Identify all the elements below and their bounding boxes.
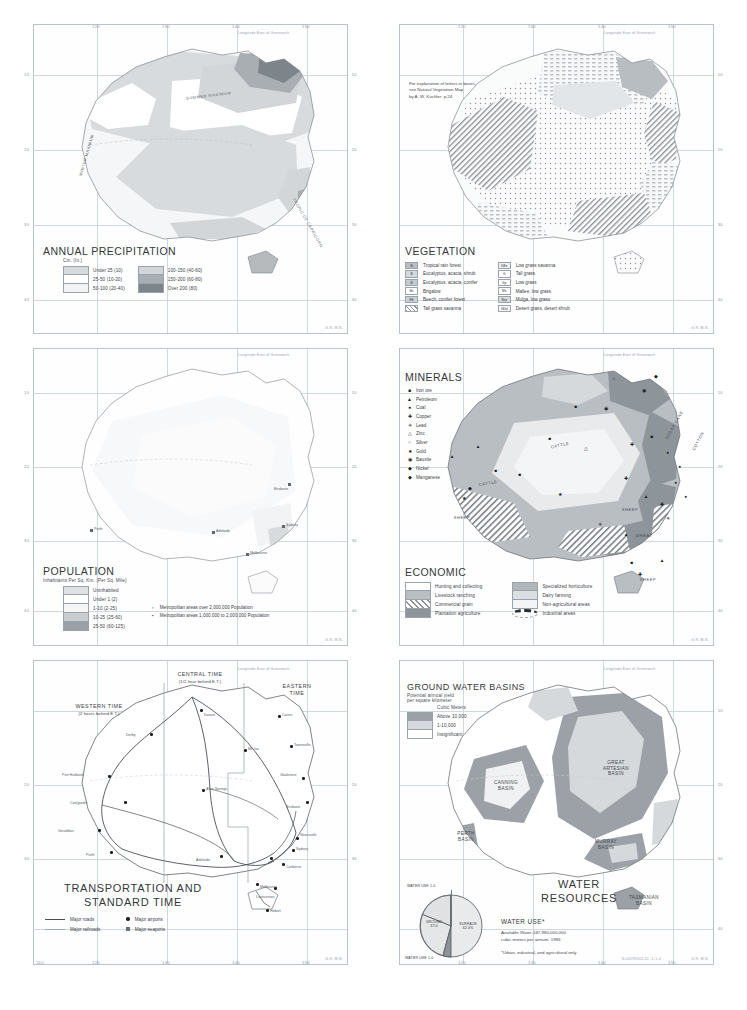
mineral-icon-coal: ● [405, 405, 414, 410]
basin-label-perth: PERTH BASIN [457, 831, 475, 842]
swatch-pop-0 [63, 586, 89, 595]
mineral-marker-bauxite: ◉ [642, 389, 646, 394]
veg-label-10: Mulga, low grass [516, 297, 550, 302]
city-marker-canberra [282, 863, 285, 866]
economic-legend-left: Hunting and collecting Livestock ranchin… [405, 582, 482, 618]
pie-label-surface: SURFACE 62.0% [451, 922, 485, 931]
lon-tick-bottom-3: 140 [232, 960, 240, 965]
legend-label-pop-2: 1-10 (2-25) [93, 604, 125, 613]
basin-label-murray: MURRAY BASIN [595, 839, 617, 850]
lon-tick-top-0: 120 [92, 24, 100, 29]
lon-tick-top-3: 150 [668, 24, 676, 29]
lon-tick-bottom-0: 110 [36, 960, 44, 965]
legend-label-water-2: Insignificant [437, 730, 467, 739]
city-marker-brisbane [306, 801, 309, 804]
mineral-label-gold: Gold [416, 449, 426, 454]
metro-label-0: Metropolitan areas over 2,000,000 Popula… [160, 605, 253, 610]
legend-units-basins: Cubic Meters [437, 705, 525, 710]
economic-legend-right: Specialized horticulture Dairy farming N… [512, 582, 592, 618]
city-label-darwin: Darwin [204, 713, 215, 717]
city-marker-adelaide [212, 531, 215, 534]
sheet-credit: G.R. M.N. [325, 957, 343, 961]
city-label-launceston: Launceston [256, 895, 275, 899]
city-label-newcastle: Newcastle [300, 833, 317, 837]
lat-tick-left-0: 10 [24, 72, 29, 77]
econ-label-sheep-3: SHEEP [640, 577, 657, 582]
lon-tick-bottom-4: 150 [302, 960, 310, 965]
city-label-port-hedland: Port Hedland [62, 773, 83, 777]
legend-label-precip-3: 100-150 (40-60) [168, 266, 202, 275]
swatch-econ-1 [405, 591, 431, 600]
lon-tick-top-1: 130 [162, 24, 170, 29]
mineral-icon-petroleum: ▲ [405, 397, 414, 402]
swatch-water-0 [407, 712, 433, 721]
lat-tick-left-1: 20 [24, 782, 29, 787]
veg-label-11: Desert grass, desert shrub [516, 306, 570, 311]
mineral-marker-coal: ● [675, 481, 678, 486]
swatch-pop-1 [63, 595, 89, 604]
pie-caption-water-use: WATER USE 1.0 [405, 956, 453, 960]
city-marker-coolgardie [124, 801, 127, 804]
mineral-marker-iron-ore: ■ [575, 405, 578, 410]
swatch-pop-3 [63, 613, 89, 622]
legend-subtitle-basins: Potential annual yield per square kilome… [407, 693, 525, 703]
mineral-marker-petroleum: ▲ [476, 445, 481, 450]
city-marker-cairns [278, 715, 281, 718]
title-transportation: TRANSPORTATION AND STANDARD TIME [43, 882, 223, 910]
swatch-pop-2 [63, 604, 89, 613]
veg-swatch-11: GDd [498, 305, 511, 312]
lat-tick-right-2: 30 [352, 538, 357, 543]
mineral-marker-petroleum: ▲ [660, 559, 665, 564]
econ-label-sheep-1: SHEEP [454, 515, 471, 520]
mineral-marker-iron-ore: ■ [631, 561, 634, 566]
sheet-credit: G.R. M.N. [325, 638, 343, 642]
lon-tick-top-1: 130 [528, 24, 536, 29]
legend-column-right: 100-150 (40-60) 150-200 (60-80) Over 200… [138, 266, 202, 293]
lon-tick-bottom-4: 150 [668, 960, 676, 965]
city-marker-geraldton [98, 829, 101, 832]
time-zone-central: CENTRAL TIME (1/2 hour behind E.T.) [154, 671, 246, 685]
panel-minerals-economic: CATTLE CATTLE SHEEP SHEEP SHEEP WHEAT SU… [399, 348, 714, 646]
vegetation-note: For explanation of letters in boxes, see… [409, 81, 476, 100]
city-marker-brisbane [288, 483, 291, 486]
lon-tick-top-3: 150 [302, 24, 310, 29]
swatch-econ-0 [405, 582, 431, 591]
legend-label-pop-4: 25-50 (60-125) [93, 622, 125, 631]
mineral-marker-petroleum: ▲ [644, 495, 649, 500]
city-label-sydney: Sydney [286, 523, 298, 527]
transport-label-roads: Major roads [70, 917, 94, 922]
veg-label-7: Tall grass [516, 271, 535, 276]
mineral-label-petroleum: Petroleum [416, 397, 437, 402]
basin-label-canning: CANNING BASIN [494, 780, 518, 791]
mineral-icon-gold: ★ [405, 449, 414, 454]
mineral-icon-iron-ore: ■ [405, 388, 414, 393]
pie-label-ground: GROUND 37.0 [417, 920, 451, 929]
swatch-precip-4 [138, 275, 164, 284]
veg-label-3: Brigalow [423, 289, 441, 294]
city-label-geraldton: Geraldton [58, 829, 74, 833]
legend-subtitle-precipitation: Cm. (In.) [63, 258, 202, 263]
swatch-precip-5 [138, 284, 164, 293]
city-label-brisbane: Brisbane [286, 805, 300, 809]
major-airports-dot-icon [126, 917, 129, 920]
mineral-marker-nickel: ◆ [468, 487, 472, 492]
veg-swatch-1: B [405, 270, 418, 277]
swatch-econ-2 [405, 600, 431, 609]
lat-tick-right-2: 30 [718, 856, 723, 861]
longitude-header: Longitude East of Greenwich [238, 31, 290, 35]
city-marker-sydney [282, 525, 285, 528]
lat-tick-left-0: 10 [24, 390, 29, 395]
sheet-credit: G.R. M.N. [691, 957, 709, 961]
mineral-marker-coal: ● [679, 465, 682, 470]
lat-tick-right-2: 30 [718, 222, 723, 227]
lon-tick-bottom-1: 120 [92, 960, 100, 965]
lat-tick-right-1: 20 [352, 464, 357, 469]
city-label-mt-isa: Mt. Isa [248, 747, 259, 751]
lat-tick-right-0: 10 [718, 708, 723, 713]
swatch-econ-7 [512, 609, 538, 618]
city-label-perth: Perth [94, 527, 103, 531]
mineral-marker-petroleum: ▲ [624, 533, 629, 538]
legend-title-precipitation: ANNUAL PRECIPITATION [43, 245, 202, 257]
mineral-label-nickel: Nickel [416, 466, 429, 471]
mineral-label-copper: Copper [416, 414, 431, 419]
